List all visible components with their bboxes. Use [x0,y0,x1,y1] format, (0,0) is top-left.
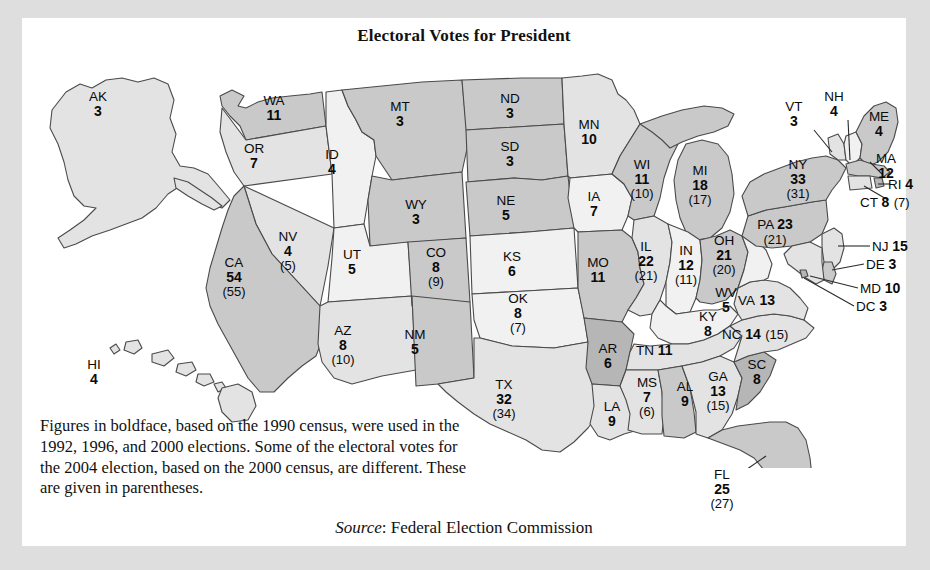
state-ND[interactable] [462,78,564,130]
state-abbr-FL: FL [698,468,746,482]
electoral-map-page: Electoral Votes for President [0,0,930,570]
state-FL[interactable] [708,422,812,468]
state-MA[interactable] [846,160,890,178]
state-HI-island-5[interactable] [196,374,214,386]
state-CO[interactable] [408,238,470,306]
map-panel: Electoral Votes for President [22,18,906,546]
state-RI[interactable] [874,178,884,188]
state-AZ[interactable] [318,296,416,384]
state-NM[interactable] [412,296,474,386]
state-label-FL[interactable]: FL 25 (27) [698,468,746,510]
state-HI-island-2[interactable] [124,340,142,354]
page-title: Electoral Votes for President [22,26,906,46]
map-caption: Figures in boldface, based on the 1990 c… [40,416,470,499]
state-CT[interactable] [848,176,872,190]
state-AK[interactable] [50,78,230,248]
source-line: Source: Federal Election Commission [22,518,906,538]
state-MI[interactable] [674,140,734,240]
state-SD[interactable] [466,124,568,182]
state-OK[interactable] [472,288,588,348]
source-value: Federal Election Commission [391,518,593,537]
state-VA[interactable] [734,280,808,320]
state-ME[interactable] [856,102,898,166]
state-NC[interactable] [730,314,814,362]
us-map: AK 3 HI 4 WA 11 OR 7 ID 4 MT 3 [22,48,906,468]
state-DC[interactable] [800,270,808,278]
state-NE[interactable] [466,176,574,236]
state-votes-FL: 25 [698,482,746,497]
state-votes-RI: 4 [905,176,913,192]
state-KS[interactable] [470,228,578,294]
state-HI-island-4[interactable] [176,362,196,376]
state-HI-island-1[interactable] [110,344,120,354]
us-map-svg [22,48,906,468]
state-IN[interactable] [666,224,702,314]
state-WY[interactable] [368,172,466,246]
source-label: Source [335,518,382,537]
state-VT[interactable] [828,134,846,160]
state-HI-island-3[interactable] [152,350,174,366]
state-votes2000-FL: (27) [698,497,746,511]
source-separator: : [382,518,391,537]
